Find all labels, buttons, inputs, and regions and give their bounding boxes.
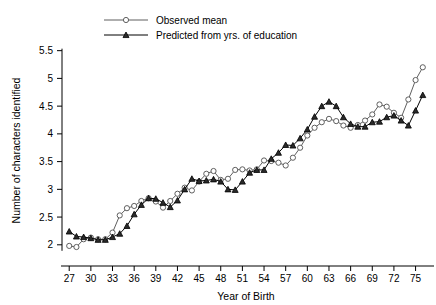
data-point-marker-triangle <box>319 103 325 109</box>
data-series <box>66 65 426 250</box>
data-point-marker-triangle <box>413 108 419 114</box>
data-point-marker-circle <box>132 203 137 208</box>
data-point-marker-triangle <box>326 99 332 105</box>
data-point-marker-circle <box>233 167 238 172</box>
x-tick-label: 45 <box>194 273 206 284</box>
data-point-marker-circle <box>377 102 382 107</box>
data-point-marker-circle <box>312 125 317 130</box>
y-tick-label: 4 <box>47 128 53 139</box>
x-tick-label: 36 <box>129 273 141 284</box>
data-point-marker-circle <box>189 188 194 193</box>
y-tick-label: 3 <box>47 184 53 195</box>
x-tick-label: 27 <box>64 273 76 284</box>
data-point-marker-circle <box>406 97 411 102</box>
data-point-marker-triangle <box>189 176 195 182</box>
line-chart: 22.533.544.555.5273033363942454851545760… <box>0 0 436 305</box>
legend-label: Predicted from yrs. of education <box>156 30 297 41</box>
data-point-marker-triangle <box>312 114 318 120</box>
data-point-marker-circle <box>168 198 173 203</box>
data-point-marker-circle <box>211 168 216 173</box>
data-point-marker-circle <box>240 167 245 172</box>
data-point-marker-triangle <box>405 123 411 129</box>
data-point-marker-triangle <box>304 126 310 132</box>
x-tick-label: 30 <box>85 273 97 284</box>
data-point-marker-circle <box>319 120 324 125</box>
x-tick-label: 33 <box>107 273 119 284</box>
y-tick-label: 5 <box>47 73 53 84</box>
x-tick-label: 54 <box>258 273 270 284</box>
data-point-marker-circle <box>225 176 230 181</box>
x-tick-label: 48 <box>215 273 227 284</box>
data-point-marker-circle <box>74 244 79 249</box>
legend-item-predicted-education: Predicted from yrs. of education <box>104 30 297 41</box>
data-point-marker-circle <box>175 191 180 196</box>
data-point-marker-triangle <box>420 92 426 98</box>
chart-figure: 22.533.544.555.5273033363942454851545760… <box>0 0 436 305</box>
data-point-marker-circle <box>290 155 295 160</box>
x-tick-label: 69 <box>367 273 379 284</box>
data-point-marker-circle <box>420 65 425 70</box>
data-point-marker-circle <box>204 171 209 176</box>
data-point-marker-triangle <box>124 223 130 229</box>
data-point-marker-circle <box>123 17 128 22</box>
y-tick-label: 2.5 <box>39 212 53 223</box>
data-point-marker-circle <box>341 123 346 128</box>
data-point-marker-triangle <box>333 103 339 109</box>
data-point-marker-circle <box>160 205 165 210</box>
data-point-marker-circle <box>117 213 122 218</box>
data-point-marker-circle <box>305 133 310 138</box>
y-tick-label: 5.5 <box>39 45 53 56</box>
data-point-marker-circle <box>384 104 389 109</box>
x-tick-label: 72 <box>388 273 400 284</box>
axes: 22.533.544.555.5273033363942454851545760… <box>39 45 434 284</box>
chart-legend: Observed meanPredicted from yrs. of educ… <box>104 15 297 41</box>
x-tick-label: 51 <box>237 273 249 284</box>
data-point-marker-triangle <box>66 228 72 234</box>
legend-item-observed-mean: Observed mean <box>104 15 227 26</box>
x-tick-label: 63 <box>323 273 335 284</box>
x-tick-label: 75 <box>410 273 422 284</box>
x-tick-label: 60 <box>302 273 314 284</box>
series-observed-mean <box>67 65 426 250</box>
data-point-marker-triangle <box>211 176 217 182</box>
data-point-marker-circle <box>261 158 266 163</box>
data-point-marker-triangle <box>174 197 180 203</box>
data-point-marker-circle <box>413 77 418 82</box>
data-point-marker-circle <box>298 145 303 150</box>
data-point-marker-circle <box>362 118 367 123</box>
data-point-marker-circle <box>276 160 281 165</box>
series-line <box>69 67 423 247</box>
data-point-marker-circle <box>67 243 72 248</box>
y-axis-title: Number of characters identified <box>10 77 22 223</box>
data-point-marker-circle <box>334 119 339 124</box>
data-point-marker-triangle <box>160 200 166 206</box>
y-tick-label: 2 <box>47 239 53 250</box>
x-tick-label: 42 <box>172 273 184 284</box>
data-point-marker-circle <box>283 163 288 168</box>
data-point-marker-circle <box>370 112 375 117</box>
legend-label: Observed mean <box>156 15 227 26</box>
data-point-marker-circle <box>326 116 331 121</box>
y-tick-label: 4.5 <box>39 101 53 112</box>
data-point-marker-circle <box>124 206 129 211</box>
x-tick-label: 57 <box>280 273 292 284</box>
data-point-marker-triangle <box>340 114 346 120</box>
x-axis-title: Year of Birth <box>217 290 275 302</box>
x-tick-label: 39 <box>150 273 162 284</box>
y-tick-label: 3.5 <box>39 156 53 167</box>
x-tick-label: 66 <box>345 273 357 284</box>
